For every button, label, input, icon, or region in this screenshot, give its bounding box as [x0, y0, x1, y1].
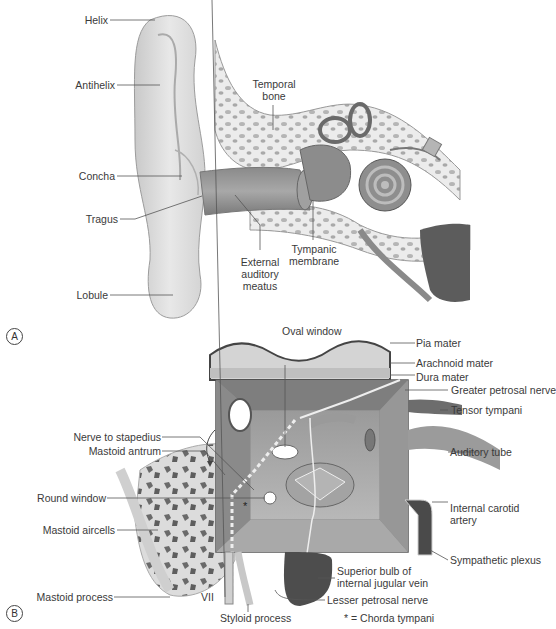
jugular-bulb — [284, 552, 332, 606]
label-eam-line1: External — [235, 256, 285, 268]
cochlea — [359, 159, 411, 211]
panel-marker-b: B — [6, 605, 23, 622]
label-tm-line2: membrane — [288, 255, 340, 267]
label-external-auditory-meatus: External auditory meatus — [235, 256, 285, 292]
label-asterisk: * — [243, 500, 247, 512]
label-tragus: Tragus — [60, 213, 118, 225]
meninges — [210, 341, 390, 380]
label-superior-bulb-line2: internal jugular vein — [337, 577, 428, 589]
label-tensor-tympani: Tensor tympani — [451, 404, 522, 416]
internal-carotid-artery — [405, 500, 432, 555]
label-lobule: Lobule — [60, 289, 108, 301]
label-greater-petrosal-nerve: Greater petrosal nerve — [451, 384, 556, 396]
label-dura-mater: Dura mater — [416, 371, 469, 383]
label-tm-line1: Tympanic — [288, 243, 340, 255]
label-temporal-bone-line2: bone — [250, 90, 298, 102]
label-concha: Concha — [60, 170, 115, 182]
label-arachnoid-mater: Arachnoid mater — [416, 357, 493, 369]
label-mastoid-antrum: Mastoid antrum — [40, 445, 161, 457]
label-eam-line3: meatus — [235, 280, 285, 292]
label-lesser-petrosal-nerve: Lesser petrosal nerve — [327, 594, 428, 606]
label-auditory-tube: Auditory tube — [450, 446, 512, 458]
panel-marker-a: A — [6, 328, 23, 345]
label-mastoid-process: Mastoid process — [10, 591, 113, 603]
label-nerve-to-stapedius: Nerve to stapedius — [40, 431, 161, 443]
label-superior-bulb: Superior bulb of internal jugular vein — [337, 565, 428, 589]
label-temporal-bone-line1: Temporal — [250, 78, 298, 90]
label-helix: Helix — [60, 14, 108, 26]
label-pia-mater: Pia mater — [416, 337, 461, 349]
label-oval-window: Oval window — [282, 325, 342, 337]
label-ica-line1: Internal carotid — [450, 502, 519, 514]
auricle — [134, 16, 205, 319]
label-styloid-process: Styloid process — [220, 612, 291, 624]
label-internal-carotid-artery: Internal carotid artery — [450, 502, 519, 526]
label-vii: VII — [201, 591, 214, 603]
label-eam-line2: auditory — [235, 268, 285, 280]
label-antihelix: Antihelix — [60, 79, 115, 91]
label-temporal-bone: Temporal bone — [250, 78, 298, 102]
label-sympathetic-plexus: Sympathetic plexus — [450, 554, 541, 566]
label-superior-bulb-line1: Superior bulb of — [337, 565, 428, 577]
label-tympanic-membrane: Tympanic membrane — [288, 243, 340, 267]
label-chorda-tympani-note: * = Chorda tympani — [344, 612, 434, 624]
label-round-window: Round window — [10, 492, 106, 504]
label-ica-line2: artery — [450, 514, 519, 526]
label-mastoid-aircells: Mastoid aircells — [10, 524, 115, 536]
